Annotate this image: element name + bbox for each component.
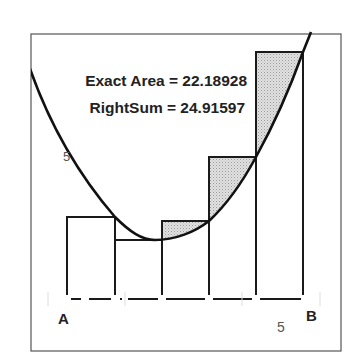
y-tick-label-5: 5 (63, 149, 70, 164)
x-tick-label-5: 5 (277, 319, 285, 335)
exact-area-label: Exact Area = 22.18928 (85, 72, 247, 89)
x-label-b: B (306, 307, 317, 324)
riemann-sum-chart: Exact Area = 22.18928 RightSum = 24.9159… (0, 0, 356, 361)
x-label-a: A (58, 310, 69, 327)
right-sum-label: RightSum = 24.91597 (90, 99, 246, 116)
